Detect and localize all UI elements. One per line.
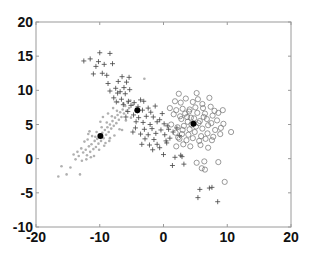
dot-marker [118, 128, 121, 131]
dot-marker [111, 120, 114, 123]
dot-marker [90, 143, 93, 146]
dot-marker [77, 155, 80, 158]
dot-marker [116, 114, 119, 117]
dot-marker [112, 107, 115, 110]
dot-marker [130, 116, 133, 119]
dot-marker [114, 116, 117, 119]
dot-marker [112, 125, 115, 128]
dot-marker [113, 134, 116, 137]
dot-marker [100, 140, 103, 143]
y-tick-label: -5 [21, 185, 34, 201]
dot-marker [107, 112, 110, 115]
dot-marker [105, 121, 108, 124]
dot-marker [108, 140, 111, 143]
dot-marker [76, 151, 79, 154]
dot-marker [121, 108, 124, 111]
dot-marker [93, 140, 96, 143]
dot-marker [106, 126, 109, 129]
dot-marker [85, 158, 88, 161]
dot-marker [99, 120, 102, 123]
dot-marker [115, 122, 118, 125]
dot-marker [90, 156, 93, 159]
dot-marker [121, 129, 124, 132]
dot-marker [65, 173, 68, 176]
dot-marker [125, 119, 128, 122]
centroid-marker [190, 121, 196, 127]
dot-marker [79, 173, 82, 176]
dot-marker [111, 115, 114, 118]
dot-marker [97, 142, 100, 145]
dot-marker [109, 123, 112, 126]
dot-marker [100, 126, 103, 129]
dot-marker [98, 148, 101, 151]
y-tick-label: 20 [17, 14, 33, 30]
dot-marker [83, 140, 86, 143]
dot-marker [91, 135, 94, 138]
dot-marker [128, 107, 131, 110]
dot-marker [88, 130, 91, 133]
dot-marker [72, 153, 75, 156]
centroid-marker [134, 107, 140, 113]
dot-marker [80, 147, 83, 150]
dot-marker [118, 118, 121, 121]
dot-marker [110, 127, 113, 130]
x-tick-label: 10 [219, 229, 235, 245]
dot-marker [88, 145, 91, 148]
dot-marker [92, 148, 95, 151]
y-tick-label: 15 [17, 48, 33, 64]
dot-marker [94, 136, 97, 139]
dot-marker [107, 131, 110, 134]
dot-marker [104, 142, 107, 145]
dot-marker [89, 151, 92, 154]
dot-marker [81, 159, 84, 162]
x-tick-label: 0 [160, 229, 168, 245]
y-tick-label: 10 [17, 82, 33, 98]
y-tick-label: -10 [13, 219, 33, 235]
dot-marker [120, 116, 123, 119]
y-tick-label: 0 [25, 151, 33, 167]
dot-marker [82, 151, 85, 154]
dot-marker [86, 138, 89, 141]
scatter-chart: -20-1001020 -10-505101520 [0, 0, 313, 257]
dot-marker [84, 148, 87, 151]
dot-marker [123, 112, 126, 115]
dot-marker [87, 133, 90, 136]
dot-marker [124, 105, 127, 108]
centroid-marker [97, 133, 103, 139]
dot-marker [74, 158, 77, 161]
dot-marker [104, 129, 107, 132]
dot-marker [95, 146, 98, 149]
dot-marker [119, 111, 122, 114]
dot-marker [57, 175, 60, 178]
y-tick-label: 5 [25, 117, 33, 133]
dot-marker [143, 77, 146, 80]
x-tick-label: -10 [90, 229, 110, 245]
dot-marker [105, 133, 108, 136]
dot-marker [116, 110, 119, 113]
dot-marker [69, 166, 72, 169]
dot-marker [86, 154, 89, 157]
dot-marker [95, 131, 98, 134]
dot-marker [93, 155, 96, 158]
dot-marker [103, 144, 106, 147]
dot-marker [60, 165, 63, 168]
dot-marker [109, 137, 112, 140]
x-tick-label: 20 [283, 229, 299, 245]
plot-area [36, 22, 291, 227]
dot-marker [102, 116, 105, 119]
